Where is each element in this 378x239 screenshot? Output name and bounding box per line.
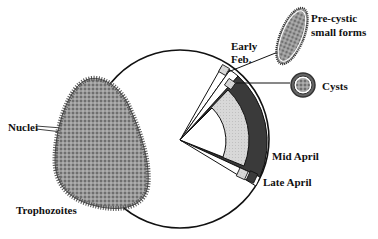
label-early: Early [231, 40, 257, 52]
precystic-cell-icon [270, 4, 315, 69]
cyst-icon [291, 73, 315, 97]
label-trophozoites: Trophozoites [16, 204, 77, 216]
label-nuclei: Nuclei [8, 121, 38, 133]
label-late-april: Late April [263, 176, 312, 188]
label-feb: Feb. [231, 53, 251, 65]
label-mid-april: Mid April [272, 150, 319, 162]
label-precystic-2: small forms [311, 26, 366, 38]
label-cysts: Cysts [322, 80, 348, 92]
label-precystic-1: Pre-cystic [311, 12, 357, 24]
